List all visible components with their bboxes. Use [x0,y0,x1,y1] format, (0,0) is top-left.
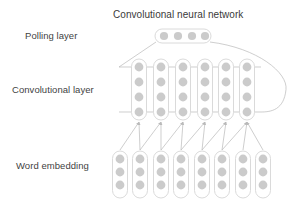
conv-node-0-2 [135,93,144,102]
conv-node-3-3 [201,108,210,117]
embedding-conv-edge-12 [247,122,263,150]
embedding-node-0-0 [116,155,125,164]
embedding-node-6-2 [239,181,248,190]
embedding-node-1-1 [136,168,145,177]
figure-canvas: Convolutional neural network Polling lay… [0,0,290,206]
conv-node-4-1 [222,78,231,87]
convolutional-layer-label: Convolutional layer [12,85,94,95]
word-embedding-label: Word embedding [16,161,89,171]
conv-node-3-1 [201,78,210,87]
embedding-node-0-2 [116,181,125,190]
conv-node-1-2 [157,93,166,102]
embedding-node-2-0 [157,155,166,164]
embedding-node-2-1 [157,168,166,177]
conv-node-5-0 [243,63,252,72]
conv-node-4-2 [222,93,231,102]
word-embedding-layer-nodes [113,151,271,198]
pooling-node-1 [174,32,182,40]
embedding-node-6-0 [239,155,248,164]
embedding-node-1-0 [136,155,145,164]
embedding-conv-edge-6 [181,122,205,150]
embedding-node-1-2 [136,181,145,190]
conv-node-3-0 [201,63,210,72]
embedding-node-3-2 [177,181,186,190]
conv-node-5-3 [243,108,252,117]
embedding-conv-edge-0 [120,122,139,150]
figure-title: Convolutional neural network [113,9,243,20]
conv-node-2-1 [179,78,188,87]
embedding-to-conv-edges [120,122,263,150]
conv-node-2-2 [179,93,188,102]
embedding-conv-edge-1 [139,122,140,150]
embedding-node-4-2 [198,181,207,190]
conv-node-4-0 [222,63,231,72]
convolutional-layer-nodes [132,59,255,120]
embedding-conv-edge-7 [202,122,205,150]
conv-node-1-3 [157,108,166,117]
embedding-node-7-2 [259,181,268,190]
embedding-node-3-1 [177,168,186,177]
conv-node-1-0 [157,63,166,72]
pooling-node-3 [201,32,209,40]
conv-node-0-3 [135,108,144,117]
pooling-node-2 [188,32,196,40]
embedding-node-4-1 [198,168,207,177]
embedding-conv-edge-5 [181,122,183,150]
embedding-node-6-1 [239,168,248,177]
conv-node-4-3 [222,108,231,117]
conv-node-1-1 [157,78,166,87]
pooling-node-0 [160,32,168,40]
embedding-node-5-1 [218,168,227,177]
conv-node-5-2 [243,93,252,102]
conv-node-0-1 [135,78,144,87]
conv-node-5-1 [243,78,252,87]
conv-node-3-2 [201,93,210,102]
conv-node-2-0 [179,63,188,72]
embedding-node-5-0 [218,155,227,164]
embedding-node-5-2 [218,181,227,190]
embedding-node-4-0 [198,155,207,164]
embedding-conv-edge-2 [140,122,161,150]
conv-node-2-3 [179,108,188,117]
embedding-node-7-1 [259,168,268,177]
embedding-node-0-1 [116,168,125,177]
embedding-node-7-0 [259,155,268,164]
pooling-layer-label: Polling layer [25,31,77,41]
embedding-node-2-2 [157,181,166,190]
embedding-conv-edge-4 [161,122,183,150]
pooling-layer-nodes [155,29,211,43]
embedding-node-3-0 [177,155,186,164]
conv-node-0-0 [135,63,144,72]
